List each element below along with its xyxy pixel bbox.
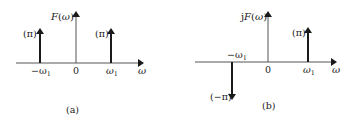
tick-pos-omega1: ω1 xyxy=(303,64,315,77)
weight-label-pos: (π) xyxy=(292,27,306,38)
tick-zero: 0 xyxy=(265,64,271,75)
xlabel-b: ω xyxy=(332,64,340,75)
tick-neg-omega1: −ω1 xyxy=(31,65,51,78)
caption-b: (b) xyxy=(262,100,276,111)
xlabel-a: ω xyxy=(138,65,146,76)
weight-label-neg: (−π) xyxy=(210,91,232,102)
weight-label-neg: (π) xyxy=(23,28,37,39)
panel-a: F(ω) (π) (π) −ω1 0 ω1 ω (a) xyxy=(16,11,146,115)
panel-b: jF(ω) (π) (−π) −ω1 0 ω1 ω (b) xyxy=(195,11,340,111)
caption-a: (a) xyxy=(66,104,79,115)
tick-zero: 0 xyxy=(73,65,79,76)
fourier-spectrum-diagram: F(ω) (π) (π) −ω1 0 ω1 ω (a) jF(ω) (π) (−… xyxy=(0,0,351,122)
weight-label-pos: (π) xyxy=(95,28,109,39)
tick-pos-omega1: ω1 xyxy=(106,65,118,78)
ylabel-a: F(ω) xyxy=(50,11,74,22)
tick-neg-omega1: −ω1 xyxy=(227,49,247,62)
ylabel-b: jF(ω) xyxy=(240,11,267,22)
